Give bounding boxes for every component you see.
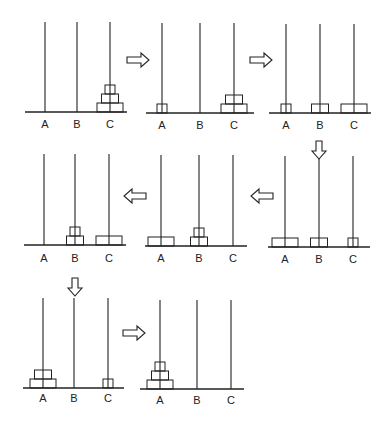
peg-label-c: C	[105, 252, 113, 264]
peg-label-a: A	[156, 394, 164, 406]
panel-step-6: ABC	[23, 298, 124, 404]
peg-label-b: B	[196, 119, 203, 131]
peg-label-c: C	[106, 118, 114, 130]
peg-label-c: C	[229, 252, 237, 264]
arrow-right-icon	[123, 326, 145, 340]
peg-label-c: C	[230, 119, 238, 131]
arrow-left-icon	[124, 189, 146, 203]
panel-step-1: ABC	[146, 23, 254, 131]
peg-label-a: A	[40, 252, 48, 264]
panel-step-3: ABC	[24, 154, 126, 264]
peg-label-a: A	[158, 119, 166, 131]
arrow-down-icon	[312, 141, 326, 159]
peg-label-c: C	[350, 119, 358, 131]
peg-label-c: C	[104, 392, 112, 404]
panel-step-5: ABC	[268, 156, 370, 265]
arrow-right-icon	[127, 53, 149, 67]
peg-label-a: A	[282, 119, 290, 131]
peg-label-b: B	[195, 252, 202, 264]
arrow-left-icon	[251, 189, 273, 203]
panel-step-2: ABC	[269, 24, 371, 131]
peg-label-a: A	[41, 118, 49, 130]
hanoi-diagram: ABCABCABCABCABCABCABCABC	[0, 0, 389, 428]
peg-label-c: C	[227, 394, 235, 406]
peg-label-b: B	[73, 118, 80, 130]
peg-label-b: B	[315, 253, 322, 265]
panel-step-4: ABC	[145, 155, 247, 264]
peg-label-a: A	[281, 253, 289, 265]
peg-label-a: A	[39, 392, 47, 404]
panel-step-7: ABC	[140, 300, 244, 406]
peg-label-b: B	[316, 119, 323, 131]
peg-label-b: B	[71, 252, 78, 264]
peg-label-b: B	[193, 394, 200, 406]
arrow-down-icon	[68, 278, 82, 296]
peg-label-b: B	[70, 392, 77, 404]
peg-label-c: C	[349, 253, 357, 265]
peg-label-a: A	[157, 252, 165, 264]
panel-step-0: ABC	[25, 22, 127, 130]
arrow-right-icon	[250, 53, 272, 67]
